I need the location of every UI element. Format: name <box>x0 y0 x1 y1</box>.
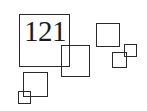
right-square <box>96 23 120 47</box>
small-square-b <box>124 44 137 57</box>
overlap-square <box>61 45 90 77</box>
number-label: 121 <box>24 17 66 46</box>
tiny-corner-square <box>18 91 31 104</box>
